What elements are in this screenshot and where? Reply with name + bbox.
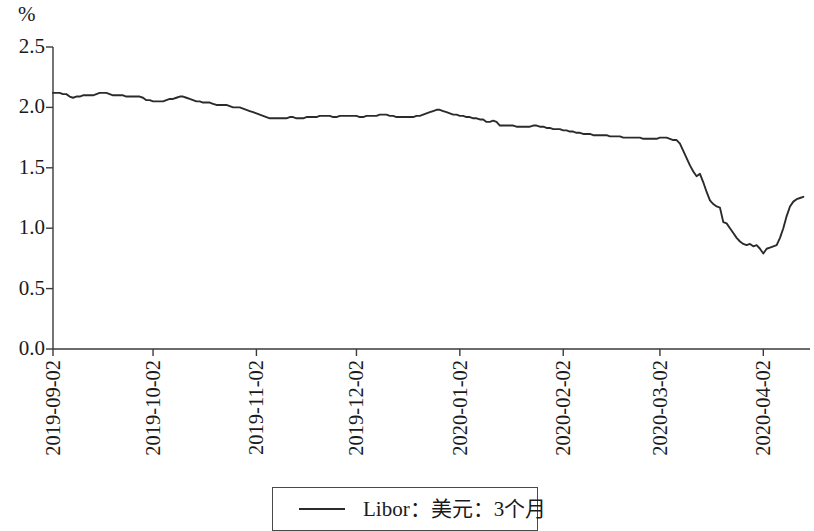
y-axis-tick-label: 1.5 bbox=[19, 157, 45, 178]
chart-legend: Libor：美元：3个月 bbox=[272, 487, 538, 531]
x-axis-tick-label: 2020-02-02 bbox=[553, 360, 574, 456]
y-axis-tick-label: 1.0 bbox=[19, 217, 45, 238]
y-axis-tick-label: 2.0 bbox=[19, 96, 45, 117]
y-axis-tick-label: 0.0 bbox=[19, 338, 45, 359]
x-axis-tick-label: 2020-04-02 bbox=[753, 360, 774, 456]
data-line-libor-usd-3m bbox=[53, 93, 803, 254]
x-axis-tick-label: 2019-09-02 bbox=[43, 360, 64, 456]
y-axis-tick-label: 0.5 bbox=[19, 278, 45, 299]
x-axis-tick-label: 2020-01-02 bbox=[450, 360, 471, 456]
x-axis-ticks bbox=[53, 349, 763, 356]
x-axis-tick-label: 2019-11-02 bbox=[246, 360, 267, 455]
x-axis-tick-label: 2019-12-02 bbox=[346, 360, 367, 456]
y-axis-ticks bbox=[46, 47, 53, 349]
y-axis-tick-label: 2.5 bbox=[19, 36, 45, 57]
legend-line-swatch bbox=[299, 508, 345, 510]
x-axis-tick-label: 2020-03-02 bbox=[650, 360, 671, 456]
legend-label-libor-usd-3m: Libor：美元：3个月 bbox=[363, 499, 546, 520]
chart-axes bbox=[46, 47, 810, 356]
x-axis-tick-label: 2019-10-02 bbox=[143, 360, 164, 456]
